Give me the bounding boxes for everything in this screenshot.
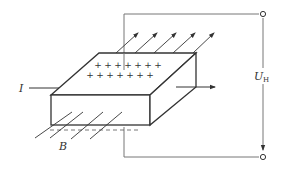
bottom-wire — [124, 127, 259, 157]
svg-text:+: + — [134, 60, 142, 70]
svg-text:H: H — [263, 76, 269, 84]
svg-text:+: + — [146, 70, 154, 80]
svg-text:+: + — [136, 70, 144, 80]
field-lines-top — [116, 33, 214, 53]
svg-text:+: + — [126, 70, 134, 80]
charge-row-1: + + + + + + + — [94, 60, 162, 70]
svg-text:+: + — [106, 70, 114, 80]
charge-row-2: + + + + + + + — [86, 70, 154, 80]
svg-text:+: + — [154, 60, 162, 70]
svg-text:+: + — [104, 60, 112, 70]
current-label: I — [18, 82, 24, 95]
field-label: B — [58, 140, 67, 153]
hall-effect-diagram: + + + + + + + + + + + + + + I B — [0, 0, 281, 171]
terminal-bottom-icon — [260, 154, 265, 159]
front-face — [51, 95, 150, 125]
svg-text:+: + — [114, 60, 122, 70]
svg-text:+: + — [144, 60, 152, 70]
terminal-top-icon — [260, 11, 265, 16]
svg-text:+: + — [116, 70, 124, 80]
svg-text:+: + — [94, 60, 102, 70]
svg-text:+: + — [124, 60, 132, 70]
svg-text:+: + — [96, 70, 104, 80]
svg-text:+: + — [86, 70, 94, 80]
hall-voltage-label: U H — [254, 70, 269, 84]
